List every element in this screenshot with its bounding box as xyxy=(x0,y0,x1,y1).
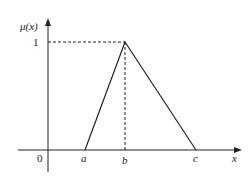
origin-label: 0 xyxy=(37,152,43,164)
x-axis-label: x xyxy=(231,152,237,164)
y-tick-label-1: 1 xyxy=(33,36,39,48)
y-axis-arrow-icon xyxy=(45,18,51,26)
membership-function-diagram: μ(x) 1 0 a b c x xyxy=(0,0,251,180)
triangle-membership-line xyxy=(85,42,196,150)
point-a-label: a xyxy=(81,152,87,164)
point-b-label: b xyxy=(122,154,128,166)
y-axis-label: μ(x) xyxy=(19,20,38,33)
point-c-label: c xyxy=(193,152,198,164)
